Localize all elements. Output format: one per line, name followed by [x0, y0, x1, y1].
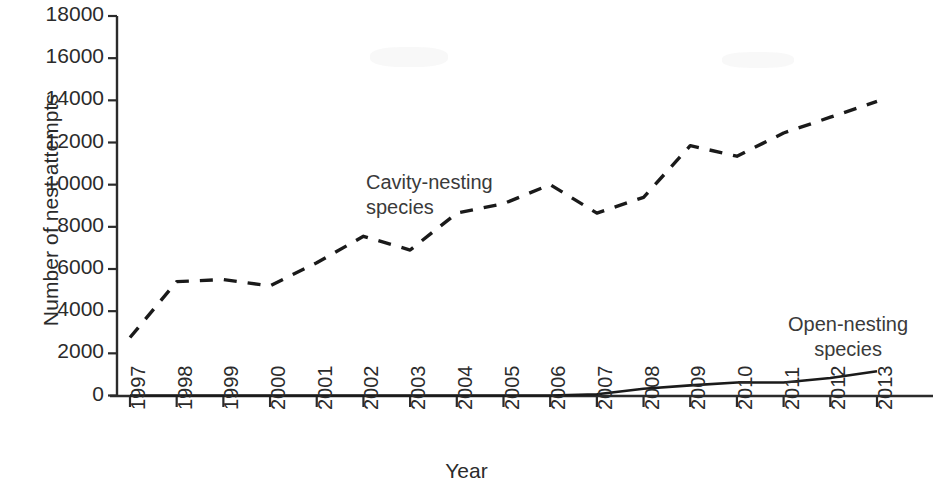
- x-axis-tick-label-text: 1999: [220, 366, 243, 411]
- x-axis-tick-label-text: 2013: [874, 366, 897, 411]
- x-axis-tick-label-text: 2011: [781, 367, 804, 410]
- x-axis-tick-label-text: 2009: [687, 366, 710, 411]
- x-axis-tick-label-text: 2008: [641, 366, 664, 411]
- series-label-open-nesting: Open-nesting species: [788, 312, 908, 362]
- series-label-cavity-line2: species: [366, 195, 493, 220]
- line-chart-plot: [0, 0, 933, 491]
- y-axis-title: Number of nest attempts: [34, 0, 68, 420]
- x-axis-tick-label-text: 1997: [127, 366, 150, 411]
- series-label-cavity-line1: Cavity-nesting: [366, 170, 493, 195]
- series-label-cavity-nesting: Cavity-nesting species: [366, 170, 493, 220]
- x-axis-tick-label-text: 2012: [827, 366, 850, 411]
- x-axis-tick-label-text: 1998: [174, 366, 197, 411]
- x-axis-tick-label-text: 2003: [407, 366, 430, 411]
- x-axis-title: Year: [0, 459, 933, 483]
- chart-figure: 0200040006000800010000120001400016000180…: [0, 0, 933, 491]
- x-axis-tick-label-text: 2006: [547, 366, 570, 411]
- x-axis-tick-label-text: 2005: [501, 366, 524, 411]
- x-axis-tick-label-text: 2004: [454, 366, 477, 411]
- x-axis-tick-label-text: 2000: [267, 366, 290, 411]
- chart-series-group: [130, 101, 877, 395]
- series-line-cavity-nesting-species: [130, 101, 877, 337]
- x-axis-tick-label-text: 2001: [314, 366, 337, 411]
- x-axis-tick-label-text: 2007: [594, 366, 617, 411]
- y-axis-ticks: [108, 16, 117, 396]
- x-axis-tick-label-text: 2002: [360, 366, 383, 411]
- series-label-open-line1: Open-nesting: [788, 312, 908, 337]
- series-label-open-line2: species: [788, 337, 908, 362]
- x-axis-tick-label-text: 2010: [734, 366, 757, 411]
